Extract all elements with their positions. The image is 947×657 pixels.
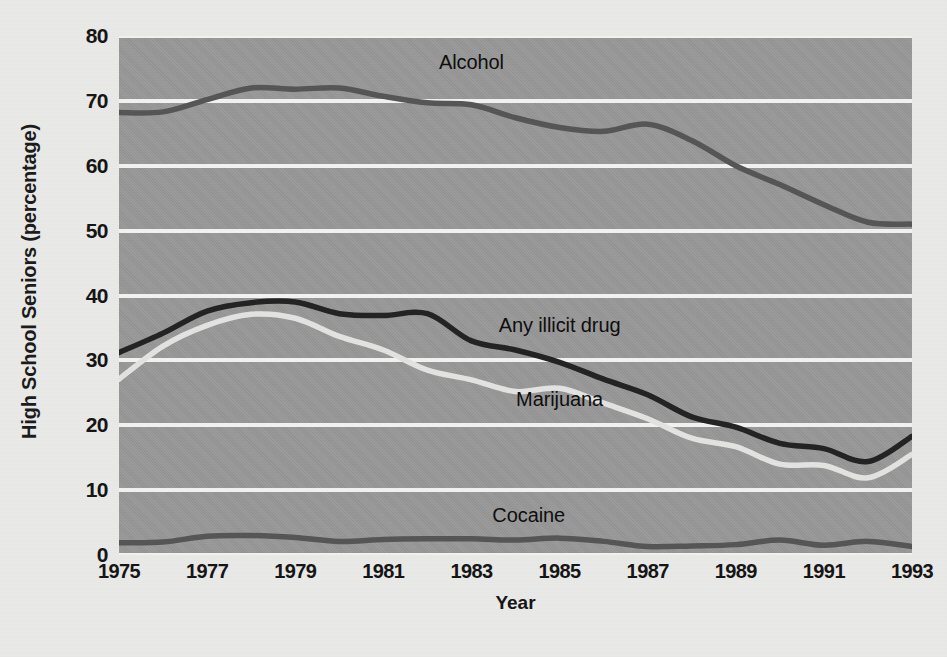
y-tick-label: 30 bbox=[58, 348, 108, 372]
y-tick-label: 80 bbox=[58, 24, 108, 48]
x-axis-title: Year bbox=[119, 592, 912, 614]
y-axis-title: High School Seniors (percentage) bbox=[18, 47, 41, 517]
x-tick-label: 1985 bbox=[539, 560, 581, 583]
x-tick-label: 1987 bbox=[627, 560, 669, 583]
series-line-alcohol bbox=[119, 87, 912, 224]
x-tick-label: 1975 bbox=[98, 560, 140, 583]
plot-area: AlcoholAny illicit drugMarijuanaCocaine bbox=[119, 36, 912, 555]
x-tick-label: 1979 bbox=[274, 560, 316, 583]
x-tick-label: 1991 bbox=[803, 560, 845, 583]
drug-use-line-chart: High School Seniors (percentage) 0102030… bbox=[0, 0, 947, 657]
series-label-alcohol: Alcohol bbox=[439, 50, 504, 73]
x-tick-label: 1983 bbox=[450, 560, 492, 583]
x-tick-label: 1989 bbox=[715, 560, 757, 583]
x-tick-label: 1977 bbox=[186, 560, 228, 583]
y-axis-tick-labels: 01020304050607080 bbox=[58, 36, 108, 555]
y-tick-label: 50 bbox=[58, 219, 108, 243]
series-label-any-illicit-drug: Any illicit drug bbox=[499, 313, 621, 336]
series-line-cocaine bbox=[119, 535, 912, 546]
y-tick-label: 70 bbox=[58, 89, 108, 113]
series-lines bbox=[119, 36, 912, 555]
series-label-cocaine: Cocaine bbox=[492, 503, 565, 526]
x-axis-tick-labels: 1975197719791981198319851987198919911993 bbox=[119, 560, 912, 588]
y-tick-label: 40 bbox=[58, 284, 108, 308]
x-tick-label: 1993 bbox=[891, 560, 933, 583]
y-tick-label: 20 bbox=[58, 413, 108, 437]
y-tick-label: 10 bbox=[58, 478, 108, 502]
series-label-marijuana: Marijuana bbox=[516, 388, 603, 411]
y-tick-label: 60 bbox=[58, 154, 108, 178]
x-tick-label: 1981 bbox=[362, 560, 404, 583]
